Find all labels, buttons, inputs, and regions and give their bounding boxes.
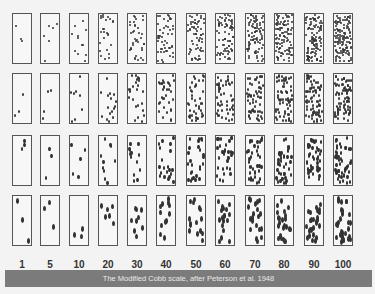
scale-box-row3-20pct (98, 135, 118, 186)
scale-box-row2-1pct (12, 73, 32, 124)
scale-box-row4-10pct (69, 195, 89, 246)
scale-box-row3-30pct (127, 135, 147, 186)
scale-box-row1-90pct (304, 13, 324, 64)
scale-box-row3-100pct (333, 135, 353, 186)
scale-box-row4-40pct (156, 195, 176, 246)
scale-box-row4-1pct (12, 195, 32, 246)
scale-box-row4-80pct (274, 195, 294, 246)
scale-box-row3-5pct (40, 135, 60, 186)
scale-box-row1-20pct (98, 13, 118, 64)
scale-box-row2-30pct (127, 73, 147, 124)
scale-box-row2-60pct (215, 73, 235, 124)
scale-box-row1-5pct (40, 13, 60, 64)
scale-box-row3-90pct (304, 135, 324, 186)
scale-box-row3-50pct (186, 135, 206, 186)
scale-box-row4-70pct (245, 195, 265, 246)
scale-box-row2-40pct (156, 73, 176, 124)
scale-box-row4-50pct (186, 195, 206, 246)
scale-box-row2-70pct (245, 73, 265, 124)
percent-label-60: 60 (210, 259, 240, 270)
scale-box-row2-100pct (333, 73, 353, 124)
percent-label-10: 10 (64, 259, 94, 270)
scale-box-row2-20pct (98, 73, 118, 124)
percent-label-30: 30 (122, 259, 152, 270)
cobb-scale-grid (0, 0, 375, 260)
scale-box-row4-5pct (40, 195, 60, 246)
scale-box-row1-50pct (186, 13, 206, 64)
scale-box-row4-20pct (98, 195, 118, 246)
scale-box-row1-1pct (12, 13, 32, 64)
percent-label-90: 90 (299, 259, 329, 270)
scale-box-row2-90pct (304, 73, 324, 124)
percent-label-20: 20 (93, 259, 123, 270)
scale-box-row4-100pct (333, 195, 353, 246)
percent-label-70: 70 (240, 259, 270, 270)
scale-box-row2-10pct (69, 73, 89, 124)
percent-label-50: 50 (181, 259, 211, 270)
percent-label-100: 100 (328, 259, 358, 270)
percent-label-1: 1 (7, 259, 37, 270)
scale-box-row3-70pct (245, 135, 265, 186)
scale-box-row3-1pct (12, 135, 32, 186)
scale-box-row2-80pct (274, 73, 294, 124)
scale-box-row1-100pct (333, 13, 353, 64)
percent-label-40: 40 (151, 259, 181, 270)
scale-box-row2-5pct (40, 73, 60, 124)
scale-box-row3-60pct (215, 135, 235, 186)
scale-box-row4-30pct (127, 195, 147, 246)
scale-box-row2-50pct (186, 73, 206, 124)
percent-label-80: 80 (269, 259, 299, 270)
scale-box-row3-10pct (69, 135, 89, 186)
scale-box-row3-40pct (156, 135, 176, 186)
scale-box-row1-40pct (156, 13, 176, 64)
scale-box-row4-60pct (215, 195, 235, 246)
figure-caption: The Modified Cobb scale, after Peterson … (5, 270, 372, 287)
scale-box-row4-90pct (304, 195, 324, 246)
scale-box-row3-80pct (274, 135, 294, 186)
percent-label-5: 5 (35, 259, 65, 270)
scale-box-row1-30pct (127, 13, 147, 64)
scale-box-row1-80pct (274, 13, 294, 64)
scale-box-row1-10pct (69, 13, 89, 64)
scale-box-row1-60pct (215, 13, 235, 64)
scale-box-row1-70pct (245, 13, 265, 64)
